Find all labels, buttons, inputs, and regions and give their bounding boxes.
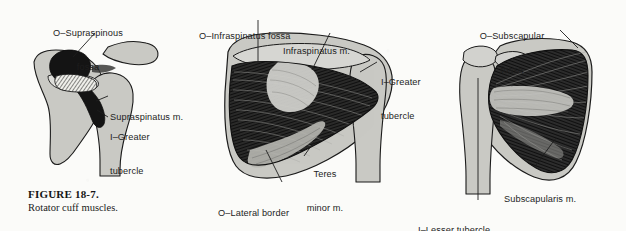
label-supraspinous-fossa-line1: O–Supraspinous xyxy=(36,28,140,39)
label-supraspinous-fossa: O–Supraspinous fossa xyxy=(36,6,140,96)
label-infraspinatus-muscle-line1: Infraspinatus m. xyxy=(283,46,350,57)
label-infraspinatus-muscle: Infraspinatus m. xyxy=(283,24,350,80)
label-subscapular-fossa-line1: O–Subscapular xyxy=(460,31,564,42)
label-teres-minor-line2: minor m. xyxy=(296,203,354,214)
label-subscapular-fossa-line2: fossa xyxy=(460,65,564,76)
label-greater-tubercle-left-line2: tubercle xyxy=(110,166,150,177)
label-teres-minor-line1: Teres xyxy=(296,169,354,180)
label-greater-tubercle-mid-line1: I–Greater xyxy=(381,77,421,88)
label-subscapularis-muscle-line1: Subscapularis m. xyxy=(504,194,576,205)
label-infraspinatus-fossa-line1: O–Infraspinatus fossa xyxy=(199,31,290,42)
figure-caption-text: Rotator cuff muscles. xyxy=(28,201,118,214)
label-lesser-tubercle-line1: I–Lesser tubercle xyxy=(418,225,490,231)
figure-number: FIGURE 18-7. xyxy=(28,188,118,201)
label-supraspinous-fossa-line2: fossa xyxy=(36,62,140,73)
figure-caption: FIGURE 18-7. Rotator cuff muscles. xyxy=(28,188,118,214)
label-greater-tubercle-mid-line2: tubercle xyxy=(381,111,421,122)
label-lateral-border-line1: O–Lateral border xyxy=(218,208,289,219)
label-subscapularis-muscle: Subscapularis m. xyxy=(504,172,576,228)
label-lateral-border: O–Lateral border xyxy=(218,186,289,231)
label-teres-minor-muscle: Teres minor m. xyxy=(296,147,354,231)
label-lesser-tubercle: I–Lesser tubercle xyxy=(418,203,490,231)
label-infraspinatus-fossa: O–Infraspinatus fossa xyxy=(199,9,290,65)
figure-illustration: O–Supraspinous fossa Supraspinatus m. I–… xyxy=(0,0,626,231)
label-greater-tubercle-left: I–Greater tubercle xyxy=(110,110,150,200)
label-subscapular-fossa: O–Subscapular fossa xyxy=(460,9,564,99)
label-greater-tubercle-left-line1: I–Greater xyxy=(110,132,150,143)
label-greater-tubercle-mid: I–Greater tubercle xyxy=(381,55,421,145)
